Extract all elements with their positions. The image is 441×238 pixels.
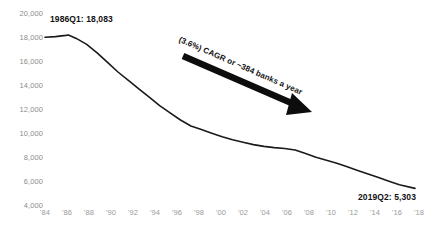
line-chart: 20,00018,00016,00014,00012,00010,0008,00… xyxy=(0,0,441,238)
plot-area xyxy=(0,0,441,238)
start-value-callout: 1986Q1: 18,083 xyxy=(50,14,113,24)
end-value-callout: 2019Q2: 5,303 xyxy=(358,192,416,202)
